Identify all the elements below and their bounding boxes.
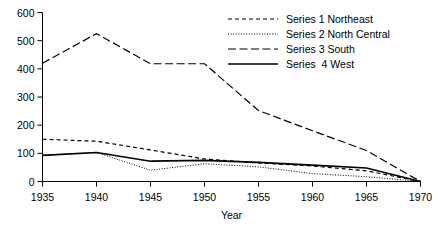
x-tick-label: 1935: [18, 192, 68, 203]
legend-label-series-4: Series 4 West: [286, 59, 354, 70]
legend-label-series-1: Series 1 Northeast: [286, 14, 373, 25]
series-line-4: [43, 152, 421, 181]
legend-swatch-series-1: [228, 13, 278, 25]
x-tick-label: 1940: [72, 192, 122, 203]
x-tick-label: 1955: [234, 192, 284, 203]
x-axis-ticks: [43, 182, 421, 187]
x-tick-label: 1970: [396, 192, 438, 203]
legend-swatch-series-3: [228, 43, 278, 55]
legend-item[interactable]: Series 1 Northeast: [228, 12, 428, 26]
x-tick-label: 1945: [126, 192, 176, 203]
x-tick-label: 1960: [288, 192, 338, 203]
chart-legend: Series 1 Northeast Series 2 North Centra…: [228, 12, 428, 72]
y-tick-label: 500: [17, 36, 35, 47]
x-tick-label: 1950: [180, 192, 230, 203]
line-chart: 0100200300400500600 19351940194519501955…: [0, 0, 438, 236]
legend-label-series-3: Series 3 South: [286, 44, 355, 55]
legend-item[interactable]: Series 2 North Central: [228, 27, 428, 41]
x-axis-title: Year: [172, 210, 292, 221]
series-line-1: [43, 139, 421, 181]
legend-swatch-series-2: [228, 28, 278, 40]
y-tick-label: 600: [17, 8, 35, 19]
legend-swatch-series-4: [228, 58, 278, 70]
x-tick-label: 1965: [342, 192, 392, 203]
y-tick-label: 400: [17, 64, 35, 75]
y-axis-ticks: [38, 13, 43, 182]
y-tick-label: 300: [17, 92, 35, 103]
legend-label-series-2: Series 2 North Central: [286, 29, 390, 40]
y-tick-label: 200: [17, 120, 35, 131]
y-tick-label: 100: [17, 148, 35, 159]
y-tick-label: 0: [29, 177, 35, 188]
legend-item[interactable]: Series 4 West: [228, 57, 428, 71]
legend-item[interactable]: Series 3 South: [228, 42, 428, 56]
